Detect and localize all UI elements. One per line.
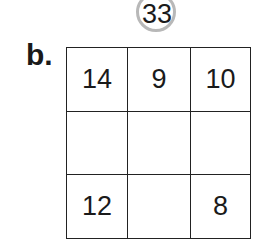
- cell-r1-c3[interactable]: 10: [191, 48, 250, 112]
- cell-r2-c2[interactable]: [128, 112, 191, 175]
- cell-r1-c2[interactable]: 9: [128, 48, 191, 112]
- magic-square-grid: 14 9 10 12 8: [66, 47, 251, 239]
- cell-r3-c3[interactable]: 8: [191, 175, 250, 238]
- cell-r2-c3[interactable]: [191, 112, 250, 175]
- cell-r1-c1[interactable]: 14: [67, 48, 128, 112]
- cell-r3-c2[interactable]: [128, 175, 191, 238]
- problem-label: b.: [26, 38, 53, 72]
- cell-r3-c1[interactable]: 12: [67, 175, 128, 238]
- target-number: 33: [136, 0, 178, 31]
- cell-r2-c1[interactable]: [67, 112, 128, 175]
